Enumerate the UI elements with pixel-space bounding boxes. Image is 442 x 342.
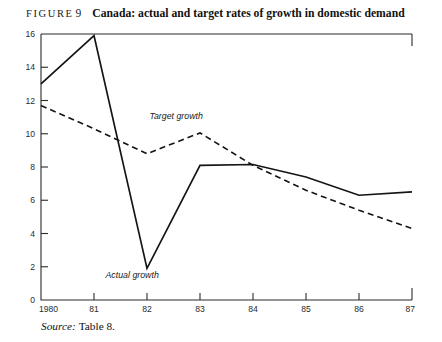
series-line-target-growth xyxy=(41,105,412,228)
y-tick-label-12: 12 xyxy=(25,96,35,106)
y-tick-label-2: 2 xyxy=(30,262,35,272)
chart-series xyxy=(41,36,412,269)
y-tick-label-16: 16 xyxy=(25,29,35,39)
annotation-actual-growth: Actual growth xyxy=(105,270,159,280)
x-tick-label-81: 81 xyxy=(89,304,99,314)
chart-axes xyxy=(41,34,412,300)
y-tick-label-14: 14 xyxy=(25,62,35,72)
x-tick-label-87: 87 xyxy=(405,304,415,314)
x-tick-label-1980: 1980 xyxy=(39,304,58,314)
x-axis-ticks: 198081828384858687 xyxy=(39,293,415,314)
y-tick-label-10: 10 xyxy=(25,129,35,139)
y-axis-ticks: 0246810121416 xyxy=(25,29,48,305)
y-tick-label-6: 6 xyxy=(30,195,35,205)
figure-container: FIGURE 9 Canada: actual and target rates… xyxy=(0,0,442,342)
source-word: Source: xyxy=(41,320,76,332)
x-tick-label-82: 82 xyxy=(142,304,152,314)
y-tick-label-8: 8 xyxy=(30,162,35,172)
x-tick-label-86: 86 xyxy=(354,304,364,314)
x-tick-label-85: 85 xyxy=(301,304,311,314)
x-tick-label-84: 84 xyxy=(248,304,258,314)
source-reference: Table 8. xyxy=(79,320,115,332)
source-note: Source:Table 8. xyxy=(41,320,115,332)
series-line-actual-growth xyxy=(41,36,412,269)
x-tick-label-83: 83 xyxy=(195,304,205,314)
line-chart: 0246810121416 198081828384858687 Target … xyxy=(0,0,442,318)
y-tick-label-4: 4 xyxy=(30,229,35,239)
y-tick-label-0: 0 xyxy=(30,295,35,305)
annotation-target-growth: Target growth xyxy=(149,111,203,121)
plot-frame xyxy=(41,34,412,300)
